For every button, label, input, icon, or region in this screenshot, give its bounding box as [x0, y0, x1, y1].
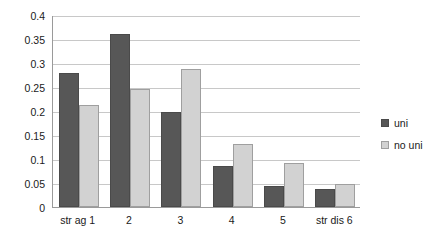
bar-group [213, 16, 253, 207]
bar [130, 89, 150, 207]
y-tick-label: 0 [39, 203, 45, 214]
bar-chart: 00.050.10.150.20.250.30.350.4 str ag 123… [0, 0, 437, 252]
legend-label: no uni [394, 139, 423, 151]
bar [213, 166, 233, 207]
y-tick-label: 0.15 [25, 131, 45, 142]
x-tick-label: str ag 1 [60, 214, 95, 226]
legend-item[interactable]: uni [381, 112, 437, 134]
bar [335, 184, 355, 207]
x-tick-label: 5 [280, 214, 286, 226]
y-tick-label: 0.25 [25, 83, 45, 94]
bar [264, 186, 284, 207]
legend-label: uni [394, 117, 408, 129]
bar-group [315, 16, 355, 207]
legend-swatch-icon [381, 119, 389, 127]
bar [233, 144, 253, 207]
bar [181, 69, 201, 207]
legend-item[interactable]: no uni [381, 134, 437, 156]
x-axis: str ag 12345str dis 6 [52, 214, 360, 238]
chart-legend: unino uni [381, 112, 437, 156]
bar [79, 105, 99, 207]
bars-layer [53, 16, 360, 207]
x-tick-label: 3 [177, 214, 183, 226]
x-tick-label: 4 [229, 214, 235, 226]
y-tick-label: 0.2 [30, 107, 45, 118]
bar [110, 34, 130, 207]
bar [161, 112, 181, 207]
y-axis: 00.050.10.150.20.250.30.350.4 [0, 0, 52, 252]
y-tick-label: 0.35 [25, 35, 45, 46]
x-tick-label: 2 [126, 214, 132, 226]
bar [284, 163, 304, 207]
x-tick-label: str dis 6 [316, 214, 353, 226]
plot-area [52, 16, 360, 208]
legend-swatch-icon [381, 141, 389, 149]
bar-group [110, 16, 150, 207]
y-tick-label: 0.4 [30, 11, 45, 22]
bar-group [161, 16, 201, 207]
bar-group [59, 16, 99, 207]
bar [315, 189, 335, 207]
bar [59, 73, 79, 207]
y-tick-label: 0.1 [30, 155, 45, 166]
y-tick-label: 0.3 [30, 59, 45, 70]
bar-group [264, 16, 304, 207]
y-tick-label: 0.05 [25, 179, 45, 190]
